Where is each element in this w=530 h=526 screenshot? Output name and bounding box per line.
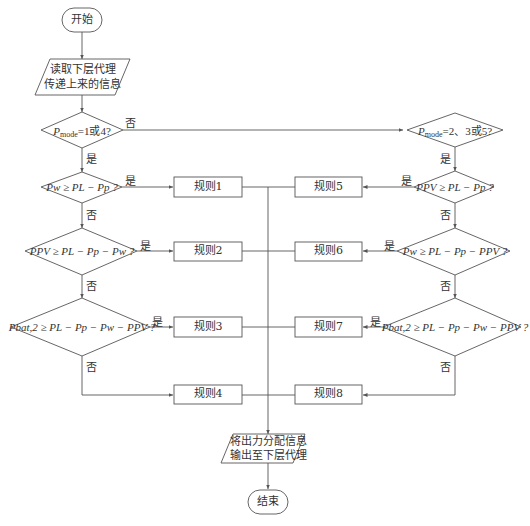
rule-2-label: 规则2 xyxy=(174,244,242,258)
right-c3-no-label: 否 xyxy=(440,358,451,374)
left-c1-yes-label: 是 xyxy=(125,172,136,188)
left-c3-no-label: 否 xyxy=(86,358,97,374)
right-mode-yes-label: 是 xyxy=(440,150,451,166)
left-c2-no-label: 否 xyxy=(86,277,97,293)
rule-3-label: 规则3 xyxy=(174,320,242,334)
left-c2-yes-label: 是 xyxy=(140,237,151,253)
right-condition-1-text: PPV ≥ PL − Pp ? xyxy=(416,181,494,193)
output-line-1: 将出力分配信息 xyxy=(226,435,310,449)
right-c2-no-label: 否 xyxy=(440,277,451,293)
left-c3-yes-label: 是 xyxy=(152,313,163,329)
left-mode-no-label: 否 xyxy=(125,114,136,130)
left-condition-3-text: Pbat,2 ≥ PL − Pp − Pw − PPV ? xyxy=(9,321,155,333)
right-condition-2-text: Pw ≥ PL − Pp − PPV ? xyxy=(403,245,508,257)
right-c3-yes-label: 是 xyxy=(370,313,381,329)
read-input-line-1: 读取下层代理 xyxy=(40,63,125,77)
left-condition-2-text: PPV ≥ PL − Pp − Pw ? xyxy=(30,245,135,257)
right-condition-3-text: Pbat,2 ≥ PL − Pp − Pw − PPV ? xyxy=(382,321,528,333)
rule-6-label: 规则6 xyxy=(295,244,362,258)
rule-5-label: 规则5 xyxy=(295,180,362,194)
read-input-line-2: 传递上来的信息 xyxy=(40,78,125,92)
rule-7-label: 规则7 xyxy=(295,320,362,334)
rule-4-label: 规则4 xyxy=(174,387,242,401)
right-c1-no-label: 否 xyxy=(440,206,451,222)
end-label: 结束 xyxy=(248,495,288,509)
left-mode-yes-label: 是 xyxy=(86,150,97,166)
rule-1-label: 规则1 xyxy=(174,180,242,194)
output-line-2: 输出至下层代理 xyxy=(226,449,310,463)
right-mode-condition: Pmode=2、3或5? xyxy=(418,122,492,139)
right-c1-yes-label: 是 xyxy=(401,172,412,188)
left-c1-no-label: 否 xyxy=(86,206,97,222)
rule-8-label: 规则8 xyxy=(295,387,362,401)
left-mode-condition: Pmode=1或4? xyxy=(53,122,111,139)
left-condition-1-text: Pw ≥ PL − Pp ? xyxy=(46,181,118,193)
right-c2-yes-label: 是 xyxy=(384,237,395,253)
start-label: 开始 xyxy=(62,13,102,27)
